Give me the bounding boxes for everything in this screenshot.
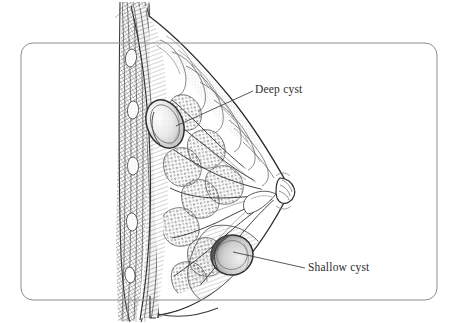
label-shallow-cyst: Shallow cyst (308, 262, 370, 274)
label-deep-cyst: Deep cyst (255, 84, 302, 96)
anatomical-illustration (0, 0, 458, 323)
illustration-artwork (110, 0, 305, 323)
figure-container: Deep cyst Shallow cyst (0, 0, 458, 323)
